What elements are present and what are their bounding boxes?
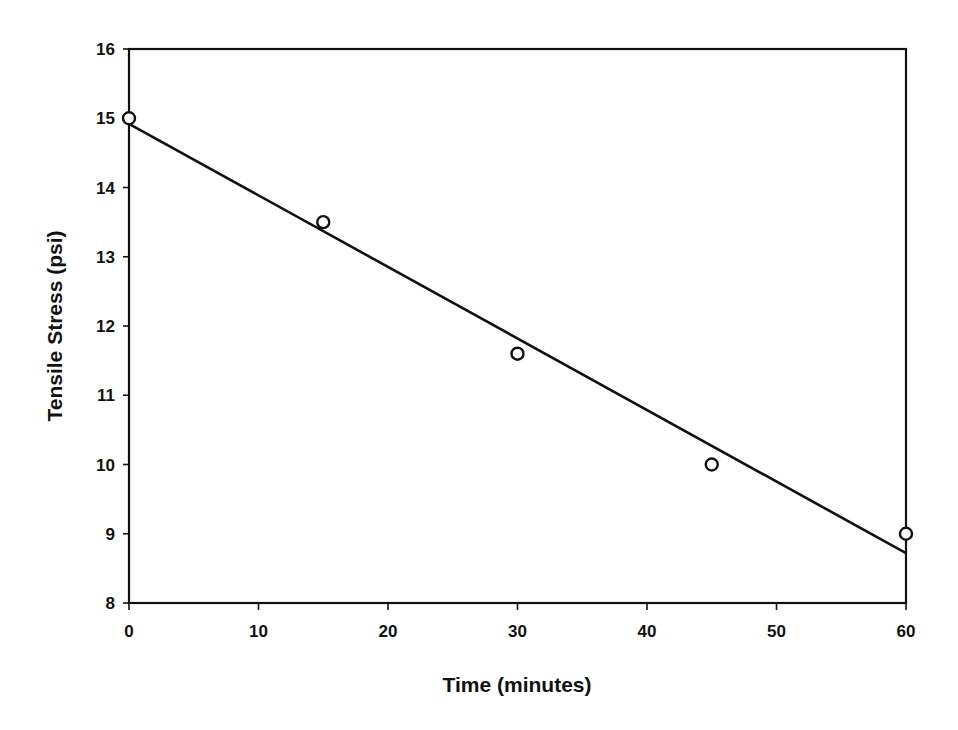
y-tick-label: 10 <box>96 456 115 475</box>
x-tick-label: 10 <box>249 622 268 641</box>
y-tick-label: 12 <box>96 317 115 336</box>
y-tick-label: 11 <box>97 386 115 405</box>
tensile-stress-chart: 8910111213141516 0102030405060 Time (min… <box>0 0 958 730</box>
x-tick-label: 30 <box>508 622 527 641</box>
x-tick-label: 0 <box>124 622 133 641</box>
y-tick-label: 9 <box>106 525 115 544</box>
x-tick-label: 50 <box>767 622 786 641</box>
x-tick-label: 20 <box>379 622 398 641</box>
x-tick-label: 40 <box>638 622 657 641</box>
y-tick-label: 13 <box>96 248 115 267</box>
data-point-marker <box>706 459 718 471</box>
x-axis-title: Time (minutes) <box>443 673 592 696</box>
data-point-marker <box>512 348 524 360</box>
y-tick-label: 16 <box>96 40 115 59</box>
y-tick-label: 8 <box>106 594 115 613</box>
y-tick-label: 14 <box>96 179 115 198</box>
data-point-marker <box>317 216 329 228</box>
y-axis-title: Tensile Stress (psi) <box>43 230 66 421</box>
data-point-marker <box>123 112 135 124</box>
y-tick-label: 15 <box>96 109 115 128</box>
data-point-marker <box>900 528 912 540</box>
x-tick-label: 60 <box>897 622 916 641</box>
chart-background <box>0 0 958 730</box>
